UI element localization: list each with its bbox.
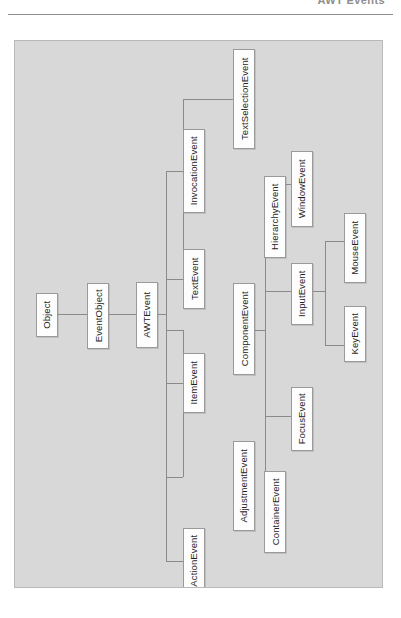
page-header-rule	[8, 14, 393, 15]
edge-awtevent-trunk	[166, 171, 167, 561]
page-header-title: AWT Events	[317, 0, 385, 6]
class-node-label: InvocationEvent	[189, 136, 199, 205]
class-node-invocation-event[interactable]: InvocationEvent	[183, 129, 205, 213]
class-node-text-event[interactable]: TextEvent	[183, 249, 205, 309]
class-node-label: FocusEvent	[297, 393, 307, 444]
class-node-input-event[interactable]: InputEvent	[291, 263, 313, 325]
edge-awtevent-componentevent	[166, 330, 183, 331]
edge-input-key	[325, 345, 346, 346]
class-node-item-event[interactable]: ItemEvent	[183, 353, 205, 413]
class-node-object[interactable]: Object	[36, 293, 58, 337]
class-node-key-event[interactable]: KeyEvent	[344, 306, 366, 362]
class-node-label: Object	[42, 301, 52, 329]
edge-textevent-textselection	[183, 99, 233, 100]
class-node-hierarchy-event[interactable]: HierarchyEvent	[264, 176, 286, 258]
class-node-event-object[interactable]: EventObject	[87, 283, 109, 349]
edge-awtevent-textevent	[166, 279, 183, 280]
class-node-window-event[interactable]: WindowEvent	[291, 151, 313, 227]
class-node-label: AdjustmentEvent	[239, 449, 249, 522]
class-node-label: KeyEvent	[350, 313, 360, 354]
edge-awtevent-invocation	[166, 171, 183, 172]
class-node-label: WindowEvent	[297, 159, 307, 218]
edge-input-trunk	[325, 241, 326, 345]
class-node-label: EventObject	[93, 290, 103, 343]
edge-input-mouse	[325, 241, 346, 242]
edge-awtevent-stub	[157, 314, 167, 315]
class-node-label: MouseEvent	[350, 221, 360, 275]
class-node-label: AWTEvent	[142, 292, 152, 338]
edge-awtevent-itemevent	[166, 383, 183, 384]
class-node-label: ItemEvent	[189, 361, 199, 405]
class-node-label: ContainerEvent	[270, 479, 280, 546]
class-node-label: TextSelectionEvent	[239, 58, 249, 141]
edge-awtevent-actionevent	[166, 561, 183, 562]
page-header: AWT Events	[0, 0, 401, 22]
class-node-mouse-event[interactable]: MouseEvent	[344, 213, 366, 283]
class-node-awt-event[interactable]: AWTEvent	[136, 282, 158, 348]
class-node-focus-event[interactable]: FocusEvent	[291, 387, 313, 451]
class-node-container-event[interactable]: ContainerEvent	[264, 471, 286, 553]
class-node-adjustment-event[interactable]: AdjustmentEvent	[233, 441, 255, 531]
class-node-label: TextEvent	[189, 258, 199, 301]
class-node-label: ActionEvent	[189, 535, 199, 587]
class-node-text-selection-event[interactable]: TextSelectionEvent	[233, 49, 255, 149]
class-node-label: ComponentEvent	[239, 292, 249, 367]
class-node-label: InputEvent	[297, 271, 307, 317]
edge-awtevent-adjustment	[166, 477, 183, 478]
class-hierarchy-figure: Object EventObject AWTEvent TextEvent It…	[14, 40, 383, 588]
class-node-component-event[interactable]: ComponentEvent	[233, 283, 255, 375]
class-node-label: HierarchyEvent	[270, 184, 280, 250]
class-node-action-event[interactable]: ActionEvent	[183, 528, 205, 588]
